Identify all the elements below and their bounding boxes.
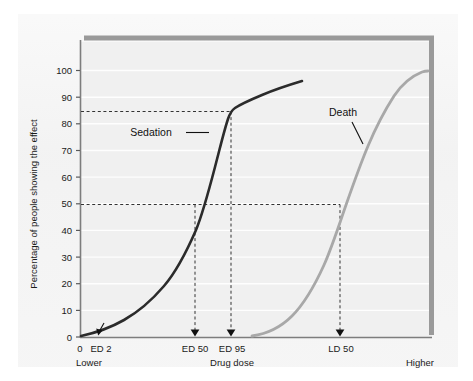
- ytick-label-50: 50: [61, 198, 72, 209]
- ytick-label-60: 60: [61, 172, 72, 183]
- xtick-label-ed50: ED 50: [182, 343, 208, 354]
- x-axis-title: Drug dose: [210, 357, 254, 368]
- annotation-death-label: Death: [329, 106, 357, 118]
- annotation-sedation-label: Sedation: [130, 126, 172, 138]
- xtick-label-origin: 0: [77, 343, 82, 354]
- xtick-label-ld50: LD 50: [328, 343, 353, 354]
- x-axis-high-label: Higher: [406, 357, 434, 368]
- xtick-label-ed2: ED 2: [90, 343, 111, 354]
- plot-area-background: [80, 42, 432, 337]
- ytick-label-70: 70: [61, 145, 72, 156]
- x-axis-low-label: Lower: [76, 357, 102, 368]
- y-axis-title: Percentage of people showing the effect: [28, 119, 39, 289]
- ytick-label-20: 20: [61, 278, 72, 289]
- figure-container: 100 90 80 70 60 50 40 30 20 10 0 Percent…: [0, 0, 473, 381]
- y-axis-ticks: [76, 71, 80, 338]
- frame-bar-top: [84, 36, 434, 41]
- ytick-label-80: 80: [61, 118, 72, 129]
- frame-bar-right: [429, 38, 434, 335]
- ytick-label-90: 90: [61, 92, 72, 103]
- ytick-label-30: 30: [61, 252, 72, 263]
- ytick-label-100: 100: [56, 65, 72, 76]
- ytick-label-40: 40: [61, 225, 72, 236]
- ytick-label-0: 0: [67, 332, 72, 343]
- xtick-label-ed95: ED 95: [219, 343, 245, 354]
- ytick-label-10: 10: [61, 305, 72, 316]
- dose-response-chart: 100 90 80 70 60 50 40 30 20 10 0 Percent…: [0, 0, 473, 381]
